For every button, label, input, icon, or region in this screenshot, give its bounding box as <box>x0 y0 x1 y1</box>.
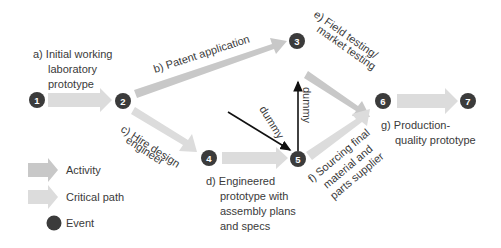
label-activity-f: f) Sourcing final material and parts sup… <box>306 126 387 201</box>
event-6: 6 <box>375 93 391 109</box>
svg-text:Activity: Activity <box>66 164 101 176</box>
svg-text:1: 1 <box>34 95 40 106</box>
svg-text:5: 5 <box>295 154 301 165</box>
legend-critical-path-icon <box>28 185 58 209</box>
svg-text:7: 7 <box>465 96 470 107</box>
svg-text:d) Engineered: d) Engineered <box>206 175 275 187</box>
svg-text:2: 2 <box>120 96 125 107</box>
label-activity-e: e) Field testing/ market testing <box>312 8 381 72</box>
svg-text:prototype with: prototype with <box>220 190 288 202</box>
legend: Activity Critical path Event <box>28 158 124 231</box>
event-3: 3 <box>289 33 305 49</box>
svg-text:4: 4 <box>206 153 212 164</box>
svg-text:and specs: and specs <box>220 220 271 232</box>
event-7: 7 <box>460 93 476 109</box>
svg-text:3: 3 <box>294 36 299 47</box>
label-activity-a: a) Initial working laboratory prototype <box>33 48 112 90</box>
event-1: 1 <box>29 92 45 108</box>
svg-text:g) Production-: g) Production- <box>381 119 450 131</box>
svg-text:quality prototype: quality prototype <box>395 134 476 146</box>
svg-text:Event: Event <box>66 217 94 229</box>
svg-text:Critical path: Critical path <box>66 191 124 203</box>
svg-text:prototype: prototype <box>48 78 94 90</box>
legend-event-icon <box>47 216 62 231</box>
svg-text:6: 6 <box>380 96 385 107</box>
activity-d-arrow <box>222 147 288 169</box>
event-2: 2 <box>115 93 131 109</box>
svg-text:a) Initial working: a) Initial working <box>33 48 112 60</box>
activity-g-arrow <box>397 88 458 114</box>
label-dummy-2-5: dummy <box>257 104 287 141</box>
label-activity-g: g) Production- quality prototype <box>381 119 476 146</box>
event-4: 4 <box>201 150 217 166</box>
label-activity-c: c) Hire design engineer <box>119 123 182 170</box>
activity-a-arrow <box>48 88 112 112</box>
label-activity-d: d) Engineered prototype with assembly pl… <box>206 175 296 232</box>
svg-text:assembly plans: assembly plans <box>220 205 296 217</box>
svg-text:laboratory: laboratory <box>48 63 97 75</box>
event-5: 5 <box>290 151 306 167</box>
label-dummy-5-3: dummy <box>301 87 313 124</box>
legend-activity-icon <box>28 158 58 182</box>
